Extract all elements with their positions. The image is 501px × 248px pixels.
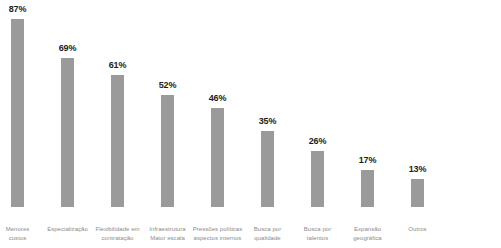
bar-column[interactable]: 87% — [0, 0, 43, 207]
bar-group: 26% — [293, 0, 343, 207]
bar-rect[interactable] — [411, 179, 424, 207]
category-label-line1: Outros — [389, 225, 447, 234]
bar-rect[interactable] — [361, 170, 374, 207]
bar-rect[interactable] — [211, 108, 224, 207]
bar-column[interactable]: 35% — [243, 0, 293, 207]
plot-area: 87%69%61%52%46%35%26%17%13% — [0, 0, 501, 207]
category-label-line2: geográfica — [339, 234, 397, 243]
bar-value-label: 46% — [209, 94, 227, 103]
bar-group: 69% — [43, 0, 93, 207]
bar-value-label: 26% — [309, 137, 327, 146]
bar-column[interactable]: 13% — [393, 0, 443, 207]
bar-column[interactable]: 26% — [293, 0, 343, 207]
bar-column[interactable]: 46% — [193, 0, 243, 207]
bar-group: 87% — [0, 0, 43, 207]
bar-group: 17% — [343, 0, 393, 207]
bar-value-label: 69% — [59, 44, 77, 53]
bar-value-label: 17% — [359, 156, 377, 165]
bar-column[interactable]: 61% — [93, 0, 143, 207]
bar-chart: 87%69%61%52%46%35%26%17%13% Menorescusto… — [0, 0, 501, 248]
bar-column[interactable]: 69% — [43, 0, 93, 207]
bar-value-label: 13% — [409, 165, 427, 174]
bar-rect[interactable] — [261, 131, 274, 207]
bar-column[interactable]: 52% — [143, 0, 193, 207]
bar-group: 61% — [93, 0, 143, 207]
bar-value-label: 61% — [109, 61, 127, 70]
category-label: Outros — [389, 225, 447, 234]
bar-rect[interactable] — [111, 75, 124, 207]
bar-value-label: 35% — [259, 117, 277, 126]
bar-rect[interactable] — [61, 58, 74, 207]
bar-group: 52% — [143, 0, 193, 207]
bar-rect[interactable] — [161, 95, 174, 207]
bar-group: 35% — [243, 0, 293, 207]
bar-value-label: 52% — [159, 81, 177, 90]
category-label-line2: custos — [0, 234, 47, 243]
bar-rect[interactable] — [11, 19, 24, 207]
bar-rect[interactable] — [311, 151, 324, 207]
category-axis: MenorescustosEspecializaçãoFlexibilidade… — [0, 207, 501, 248]
bar-column[interactable]: 17% — [343, 0, 393, 207]
bar-group: 13% — [393, 0, 443, 207]
bar-value-label: 87% — [9, 5, 27, 14]
bar-group: 46% — [193, 0, 243, 207]
